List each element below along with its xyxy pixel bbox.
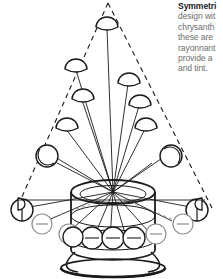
illustration-canvas: Symmetri design wit chrysanth these are … bbox=[0, 0, 223, 279]
caption-text: Symmetri design wit chrysanth these are … bbox=[178, 1, 223, 74]
caption-title: Symmetri bbox=[178, 1, 223, 11]
caption-line-5: provide a bbox=[178, 53, 223, 63]
caption-line-1: design wit bbox=[178, 11, 223, 21]
flower-stems bbox=[30, 28, 190, 240]
caption-line-3: these are bbox=[178, 32, 223, 42]
caption-line-4: rayonnant bbox=[178, 43, 223, 53]
caption-line-6: and tint. bbox=[178, 63, 223, 73]
caption-line-2: chrysanth bbox=[178, 22, 223, 32]
flower-heads-front bbox=[56, 17, 157, 131]
